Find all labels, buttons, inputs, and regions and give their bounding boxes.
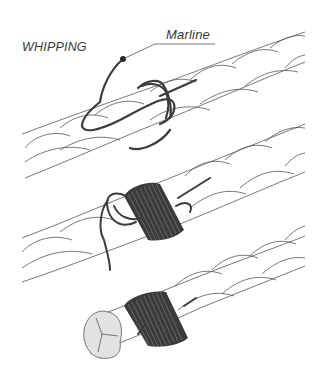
whipping-diagram bbox=[0, 0, 328, 378]
marline-loop-step-1 bbox=[82, 59, 196, 149]
marline-leader-line bbox=[125, 44, 215, 58]
whipping-coil-step-3 bbox=[124, 292, 196, 347]
marline-label: Marline bbox=[166, 27, 210, 42]
rope-end-strands bbox=[84, 311, 122, 358]
leader-dot bbox=[120, 56, 126, 62]
rope-step-3 bbox=[90, 226, 305, 354]
whipping-coil-step-2 bbox=[101, 178, 210, 270]
diagram-title: WHIPPING bbox=[22, 40, 87, 54]
